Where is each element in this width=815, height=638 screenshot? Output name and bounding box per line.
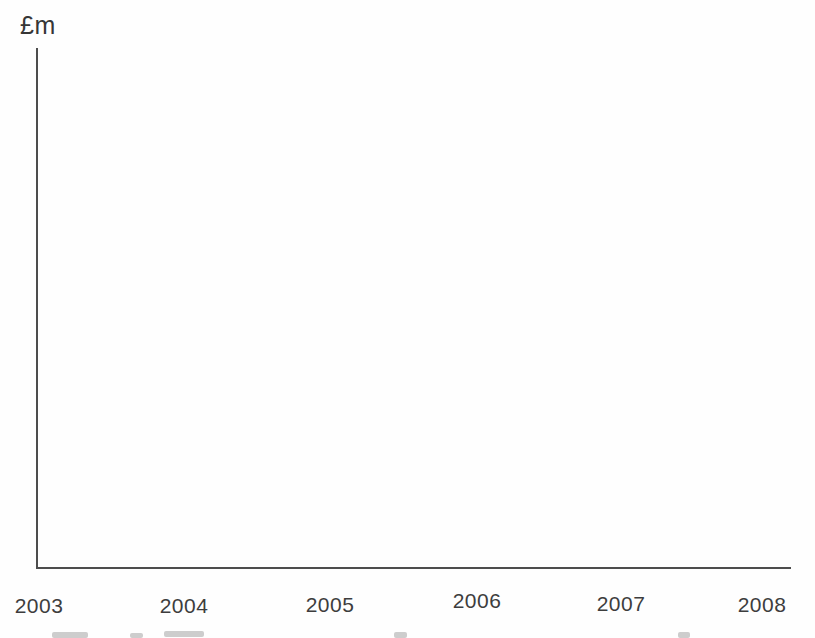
- x-tick-label-2004: 2004: [160, 594, 209, 618]
- clipped-text-fragment: [52, 632, 88, 638]
- x-tick-label-2008: 2008: [738, 593, 787, 617]
- x-tick-label-2006: 2006: [453, 589, 502, 613]
- clipped-text-fragment: [164, 631, 204, 637]
- clipped-text-fragment: [678, 632, 690, 638]
- y-axis-line: [36, 48, 38, 569]
- chart-canvas: £m 2003 2004 2005 2006 2007 2008: [0, 0, 815, 638]
- x-tick-label-2003: 2003: [15, 594, 64, 618]
- clipped-text-fragment: [394, 632, 407, 638]
- clipped-text-fragment: [130, 633, 143, 638]
- y-axis-unit-label: £m: [20, 11, 56, 40]
- x-tick-label-2007: 2007: [597, 592, 646, 616]
- x-tick-label-2005: 2005: [306, 593, 355, 617]
- x-axis-line: [36, 567, 791, 569]
